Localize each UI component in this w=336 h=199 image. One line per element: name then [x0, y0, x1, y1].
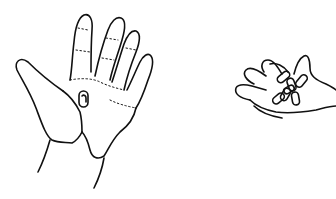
open-palm-with-single-pill — [0, 0, 180, 199]
hand-with-pill-cluster — [230, 40, 336, 140]
hand-single-pill-icon — [0, 0, 180, 199]
hand-many-pills-icon — [230, 40, 336, 140]
